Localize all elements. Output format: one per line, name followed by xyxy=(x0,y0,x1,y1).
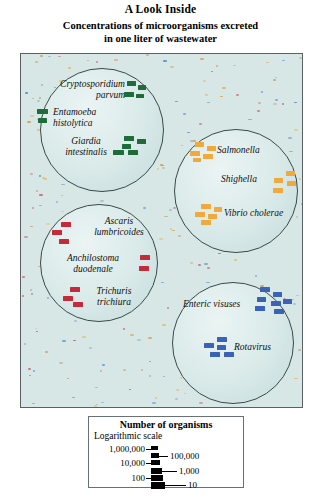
label-line-2: trichiura xyxy=(97,297,131,307)
background-speck xyxy=(236,94,239,96)
background-speck xyxy=(82,336,86,338)
subtitle-line-2: in one liter of wastewater xyxy=(0,32,321,45)
background-speck xyxy=(233,65,236,67)
background-speck xyxy=(183,113,186,115)
legend-value: 10 xyxy=(188,480,197,491)
background-speck xyxy=(22,295,24,297)
background-speck xyxy=(207,102,210,104)
marker-enteric-virus xyxy=(274,309,284,314)
marker-cryptosporidium xyxy=(138,85,146,90)
background-speck xyxy=(187,132,190,134)
label-anchilostoma-duodenale: Anchilostoma duodenale xyxy=(49,253,137,275)
background-speck xyxy=(282,103,284,105)
marker-ascaris xyxy=(59,239,69,244)
background-speck xyxy=(198,264,201,266)
background-speck xyxy=(61,211,64,213)
legend-rows: 1,000,000100,00010,0001,00010010 xyxy=(89,444,243,488)
label-giardia-intestinalis: Giardia intestinalis xyxy=(51,136,121,158)
background-speck xyxy=(293,303,296,305)
background-speck xyxy=(37,100,40,102)
label-line-2: intestinalis xyxy=(65,147,107,157)
background-speck xyxy=(24,236,28,238)
background-speck xyxy=(200,58,204,60)
background-speck xyxy=(234,259,237,261)
background-speck xyxy=(261,91,263,93)
background-speck xyxy=(32,403,35,405)
background-speck xyxy=(282,60,285,62)
background-speck xyxy=(294,129,298,131)
background-speck xyxy=(164,216,168,218)
marker-giardia xyxy=(122,144,131,149)
background-speck xyxy=(190,262,193,264)
background-speck xyxy=(123,328,125,330)
background-speck xyxy=(123,369,126,371)
background-speck xyxy=(169,209,172,211)
background-speck xyxy=(205,94,208,96)
background-speck xyxy=(61,184,65,186)
label-line-2: lumbricoides xyxy=(94,227,144,237)
marker-anchilostoma xyxy=(140,255,150,260)
background-speck xyxy=(59,362,63,364)
marker-salmonella xyxy=(190,151,200,156)
background-speck xyxy=(30,173,33,175)
marker-rotavirus xyxy=(217,345,226,350)
background-speck xyxy=(87,60,89,62)
illustration-panel: Cryptosporidium parvum Entamoeba histoly… xyxy=(20,53,303,408)
background-speck xyxy=(36,331,38,333)
background-speck xyxy=(141,369,143,371)
marker-salmonella xyxy=(203,154,213,159)
background-speck xyxy=(161,282,164,284)
background-speck xyxy=(248,119,252,121)
label-line-1: Cryptosporidium xyxy=(60,79,125,89)
marker-cryptosporidium xyxy=(124,92,134,97)
label-line-2: parvum xyxy=(96,90,125,100)
marker-anchilostoma xyxy=(139,266,149,271)
marker-shighella xyxy=(273,188,283,193)
background-speck xyxy=(100,200,104,202)
background-speck xyxy=(30,115,34,117)
background-speck xyxy=(216,65,218,67)
label-line-1: Anchilostoma xyxy=(67,253,119,263)
background-speck xyxy=(67,378,69,380)
label-ascaris-lumbricoides: Ascaris lumbricoides xyxy=(81,216,157,238)
background-speck xyxy=(129,389,131,391)
background-speck xyxy=(163,376,165,378)
marker-shighella xyxy=(274,178,283,183)
background-speck xyxy=(296,295,299,297)
title-block: A Look Inside Concentrations of microorg… xyxy=(0,2,321,45)
legend-bar xyxy=(151,446,158,450)
marker-ascaris xyxy=(52,230,62,235)
background-speck xyxy=(218,253,221,255)
background-speck xyxy=(29,375,31,377)
marker-cryptosporidium xyxy=(136,94,144,98)
marker-rotavirus xyxy=(224,352,234,357)
legend-bar xyxy=(151,482,165,489)
background-speck xyxy=(137,339,141,341)
legend-leader-line xyxy=(159,456,168,457)
background-speck xyxy=(114,59,118,61)
marker-giardia xyxy=(128,150,138,155)
background-speck xyxy=(184,393,186,395)
background-speck xyxy=(48,56,51,58)
label-line-1: Trichuris xyxy=(97,286,132,296)
background-speck xyxy=(152,402,156,404)
legend-leader-line xyxy=(146,478,151,479)
background-speck xyxy=(172,230,175,232)
background-speck xyxy=(28,368,31,370)
background-speck xyxy=(56,201,58,203)
legend-leader-line xyxy=(146,449,151,450)
background-speck xyxy=(45,351,48,353)
background-speck xyxy=(211,71,213,73)
background-speck xyxy=(266,62,269,64)
background-speck xyxy=(39,175,41,177)
background-speck xyxy=(255,275,257,277)
marker-shighella xyxy=(286,171,295,176)
background-speck xyxy=(178,235,181,237)
marker-vibrio xyxy=(195,212,205,217)
background-speck xyxy=(100,370,102,372)
marker-entamoeba xyxy=(37,109,48,114)
background-speck xyxy=(170,66,174,68)
background-speck xyxy=(44,178,47,180)
page-title: A Look Inside xyxy=(0,2,321,17)
background-speck xyxy=(74,320,77,322)
